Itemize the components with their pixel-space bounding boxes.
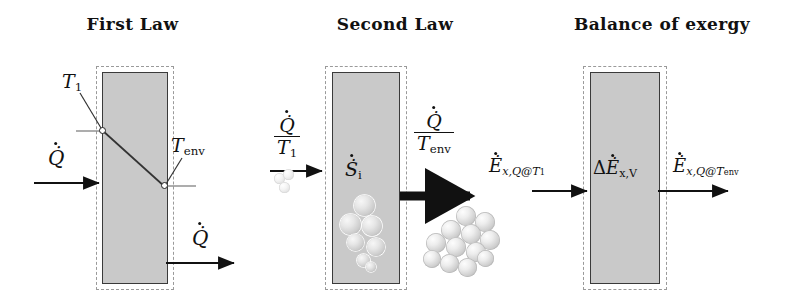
sphere [440, 254, 459, 273]
outlet-exergy-subscript-index: env [724, 167, 739, 177]
sphere [340, 214, 361, 235]
temperature-profile-line [103, 131, 164, 186]
sphere [279, 182, 290, 193]
panel-balance-of-exergy: Balance of exergy Ėx,Q@T1 ΔĖx,V Ėx,Q@… [525, 0, 799, 302]
outlet-exergy-subscript: x,Q@T [686, 165, 724, 178]
sphere [366, 262, 376, 272]
outlet-heat-symbol-first-law: Q̇ [192, 228, 208, 248]
cold-temperature-symbol: T [171, 134, 184, 156]
cold-temperature-label: Tenv [171, 136, 205, 158]
destroyed-exergy-label: ΔĖx,V [593, 159, 637, 179]
sphere [367, 238, 385, 256]
first-law-vectors [0, 0, 265, 302]
destroyed-exergy-symbol: Ė [606, 159, 619, 177]
entropy-generation-label: Ṡi [345, 160, 362, 182]
outlet-heat-label-first-law: Q̇ [192, 228, 208, 248]
outlet-entropy-label: Q̇ Tenv [414, 112, 454, 156]
hot-temperature-subscript: 1 [75, 80, 83, 94]
cold-face-node [161, 182, 168, 189]
inlet-entropy-label: Q̇ T1 [274, 116, 300, 160]
inlet-exergy-symbol: Ė [489, 157, 502, 175]
outlet-entropy-denominator: Tenv [414, 132, 454, 156]
entropy-generation-symbol: Ṡ [345, 160, 358, 179]
sphere [477, 250, 494, 267]
inlet-entropy-denominator: T1 [274, 136, 300, 160]
sphere [423, 250, 441, 268]
tenv-leader-line [166, 158, 182, 184]
destroyed-exergy-subscript: x,V [619, 167, 637, 180]
hot-temperature-symbol: T [62, 70, 75, 92]
inlet-exergy-subscript-index: 1 [540, 167, 545, 177]
sphere [458, 258, 477, 277]
outlet-exergy-label: Ėx,Q@Tenv [673, 157, 739, 177]
entropy-generation-subscript: i [358, 168, 362, 182]
hot-temperature-label: T1 [62, 72, 82, 94]
t1-leader-line [80, 93, 101, 128]
outlet-entropy-numerator: Q̇ [414, 112, 454, 132]
panel-first-law: First Law T1 Tenv Q̇ [0, 0, 265, 302]
sphere [362, 216, 382, 236]
sphere [354, 195, 375, 216]
sphere [347, 234, 364, 251]
hot-face-node [99, 127, 106, 134]
cold-temperature-subscript: env [184, 144, 205, 158]
inlet-entropy-fraction: Q̇ T1 [274, 116, 300, 160]
panel-second-law: Second Law Q̇ T1 Q̇ Tenv Ṡi [265, 0, 525, 302]
exergy-vectors [525, 0, 799, 302]
sphere [283, 169, 294, 180]
inlet-heat-label-first-law: Q̇ [48, 148, 64, 168]
inlet-entropy-numerator: Q̇ [274, 116, 300, 136]
inlet-exergy-subscript: x,Q@T [502, 165, 540, 178]
outlet-exergy-symbol: Ė [673, 157, 686, 175]
outlet-entropy-fraction: Q̇ Tenv [414, 112, 454, 156]
inlet-heat-symbol-first-law: Q̇ [48, 148, 64, 168]
delta-symbol: Δ [593, 157, 606, 178]
inlet-exergy-label: Ėx,Q@T1 [489, 157, 545, 177]
